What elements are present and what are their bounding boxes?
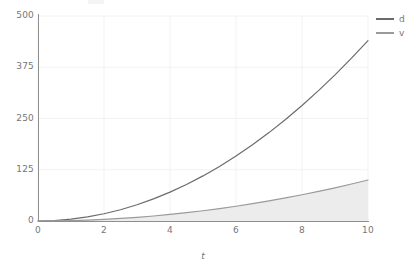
x-tick-label: 4 — [158, 226, 182, 235]
x-axis-title: t — [38, 252, 368, 261]
y-tick-label: 375 — [4, 62, 34, 71]
plot-canvas — [0, 0, 417, 272]
x-tick-label: 8 — [290, 226, 314, 235]
legend-swatch-v — [376, 32, 394, 34]
y-tick-label: 500 — [4, 11, 34, 20]
legend-swatch-d — [376, 18, 394, 20]
legend-item-v[interactable]: v — [376, 26, 417, 40]
legend: d v — [376, 12, 417, 40]
legend-label-v: v — [399, 29, 404, 38]
legend-item-d[interactable]: d — [376, 12, 417, 26]
x-tick-label: 0 — [26, 226, 50, 235]
series-fills — [38, 180, 368, 221]
legend-label-d: d — [399, 15, 405, 24]
x-tick-label: 6 — [224, 226, 248, 235]
y-tick-label: 0 — [4, 216, 34, 225]
y-axis-line — [38, 14, 39, 222]
chart-container: 0125250375500 0246810 t d v — [0, 0, 417, 272]
x-tick-label: 10 — [356, 226, 380, 235]
x-axis-line — [38, 221, 369, 222]
y-tick-label: 125 — [4, 165, 34, 174]
gridlines — [38, 16, 368, 221]
x-tick-label: 2 — [92, 226, 116, 235]
y-tick-label: 250 — [4, 114, 34, 123]
